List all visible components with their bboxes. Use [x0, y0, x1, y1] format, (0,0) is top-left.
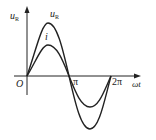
y-axis-arrow-icon	[25, 6, 30, 13]
x-axis-label: ωt	[132, 79, 141, 89]
tick-2pi-label: 2π	[112, 76, 122, 87]
curve-u-r-label: uR	[50, 8, 59, 20]
curve-i-label: i	[45, 31, 48, 42]
x-axis-arrow-icon	[134, 74, 141, 79]
tick-pi-label: π	[73, 76, 78, 87]
origin-label: O	[16, 78, 23, 89]
sine-diagram: uR uR i O π 2π ωt	[0, 0, 156, 140]
y-axis-label: uR	[10, 10, 19, 22]
